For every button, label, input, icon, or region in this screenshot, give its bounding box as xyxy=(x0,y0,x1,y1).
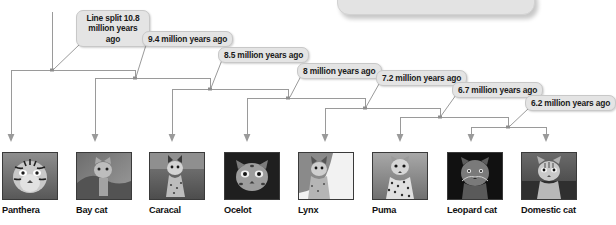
species-caracal[interactable]: Caracal xyxy=(149,152,205,215)
ocelot-photo xyxy=(224,152,280,200)
callout-split-6-2[interactable]: 6.2 million years ago xyxy=(525,95,616,111)
callout-split-8-5[interactable]: 8.5 million years ago xyxy=(218,47,309,63)
puma-photo xyxy=(372,152,428,200)
species-label: Panthera xyxy=(2,205,58,215)
species-label: Bay cat xyxy=(76,205,132,215)
species-bay-cat[interactable]: Bay cat xyxy=(76,152,132,215)
leopard-cat-photo xyxy=(447,152,503,200)
species-domestic-cat[interactable]: Domestic cat xyxy=(521,152,577,215)
species-panthera[interactable]: Panthera xyxy=(2,152,58,215)
lynx-photo xyxy=(298,152,354,200)
species-label: Domestic cat xyxy=(521,205,577,215)
species-label: Leopard cat xyxy=(447,205,503,215)
caracal-photo xyxy=(149,152,205,200)
callout-split-10-8[interactable]: Line split 10.8 million years ago xyxy=(76,10,150,47)
panthera-photo xyxy=(2,152,58,200)
terminal-arrows xyxy=(8,134,550,142)
species-label: Puma xyxy=(372,205,428,215)
species-lynx[interactable]: Lynx xyxy=(298,152,354,215)
callout-split-9-4[interactable]: 9.4 million years ago xyxy=(142,31,233,47)
species-leopard-cat[interactable]: Leopard cat xyxy=(447,152,503,215)
domestic-cat-photo xyxy=(521,152,577,200)
species-label: Lynx xyxy=(298,205,354,215)
species-ocelot[interactable]: Ocelot xyxy=(224,152,280,215)
callout-split-8[interactable]: 8 million years ago xyxy=(297,63,382,79)
species-puma[interactable]: Puma xyxy=(372,152,428,215)
bay-cat-photo xyxy=(76,152,132,200)
species-label: Caracal xyxy=(149,205,205,215)
species-label: Ocelot xyxy=(224,205,280,215)
